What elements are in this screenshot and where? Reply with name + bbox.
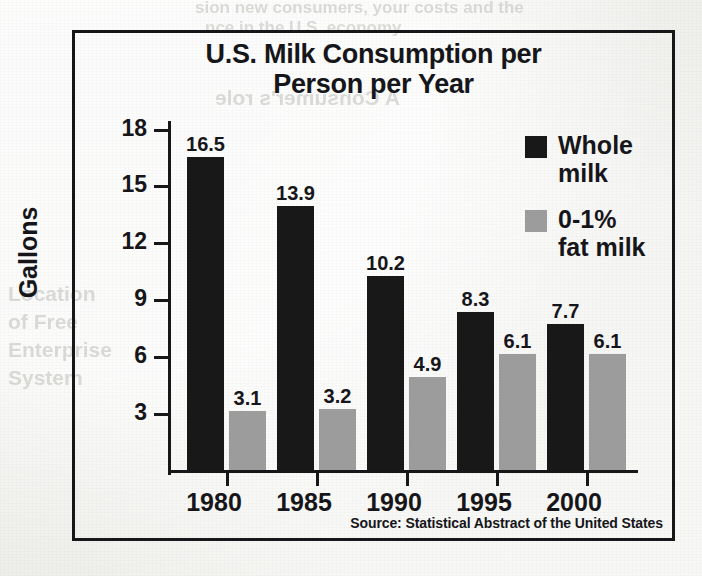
y-tick-9	[154, 299, 169, 302]
chart-legend: Whole milk 0-1% fat milk	[525, 131, 646, 279]
bar-value-1985-whole: 13.9	[268, 182, 323, 205]
bar-2000-low-fat-milk[interactable]	[589, 354, 626, 470]
y-tick-3	[154, 413, 169, 416]
x-tick-1985	[316, 473, 319, 486]
legend-swatch-low-fat-milk-icon	[525, 210, 547, 232]
bar-1985-low-fat-milk[interactable]	[319, 409, 356, 470]
y-tick-18	[154, 129, 169, 132]
legend-label-whole-milk-line-2: milk	[558, 159, 608, 187]
x-tick-label-1995: 1995	[439, 488, 529, 517]
y-tick-label-18: 18	[85, 115, 147, 142]
x-tick-label-2000: 2000	[529, 488, 619, 517]
legend-label-whole-milk: Whole milk	[558, 131, 633, 187]
bar-1995-low-fat-milk[interactable]	[499, 354, 536, 470]
y-tick-label-6: 6	[85, 342, 147, 369]
x-axis-line	[168, 470, 638, 473]
bar-1995-whole-milk[interactable]	[457, 312, 494, 470]
legend-item-low-fat-milk[interactable]: 0-1% fat milk	[525, 205, 646, 261]
y-tick-15	[154, 185, 169, 188]
x-tick-2000	[586, 473, 589, 486]
legend-label-low-fat-milk-line-2: fat milk	[558, 233, 646, 261]
bar-2000-whole-milk[interactable]	[547, 324, 584, 470]
y-tick-label-3: 3	[85, 399, 147, 426]
x-tick-1995	[496, 473, 499, 486]
bar-value-1995-whole: 8.3	[448, 288, 503, 311]
legend-swatch-whole-milk-icon	[525, 136, 547, 158]
bar-value-1995-lowfat: 6.1	[490, 330, 545, 353]
chart-source-note: Source: Statistical Abstract of the Unit…	[350, 515, 663, 531]
bar-1980-low-fat-milk[interactable]	[229, 411, 266, 470]
y-tick-6	[154, 356, 169, 359]
bar-1985-whole-milk[interactable]	[277, 206, 314, 470]
x-tick-1990	[406, 473, 409, 486]
bar-value-1985-lowfat: 3.2	[310, 385, 365, 408]
chart-title-line-1: U.S. Milk Consumption per	[205, 39, 541, 69]
legend-label-low-fat-milk-line-1: 0-1%	[558, 205, 616, 233]
legend-item-whole-milk[interactable]: Whole milk	[525, 131, 646, 187]
bar-value-1980-whole: 16.5	[178, 133, 233, 156]
chart-frame: U.S. Milk Consumption per Person per Yea…	[72, 30, 675, 541]
y-tick-12	[154, 242, 169, 245]
x-tick-label-1985: 1985	[259, 488, 349, 517]
y-tick-label-12: 12	[85, 228, 147, 255]
bar-1980-whole-milk[interactable]	[187, 157, 224, 470]
legend-label-whole-milk-line-1: Whole	[558, 131, 633, 159]
x-tick-label-1980: 1980	[169, 488, 259, 517]
chart-title-line-2: Person per Year	[273, 69, 474, 99]
bar-value-1990-lowfat: 4.9	[400, 353, 455, 376]
bar-value-1980-lowfat: 3.1	[220, 387, 275, 410]
bar-value-1990-whole: 10.2	[358, 252, 413, 275]
chart-title: U.S. Milk Consumption per Person per Yea…	[75, 39, 672, 99]
legend-label-low-fat-milk: 0-1% fat milk	[558, 205, 646, 261]
y-tick-label-15: 15	[85, 171, 147, 198]
bar-value-2000-whole: 7.7	[538, 300, 593, 323]
bar-1990-low-fat-milk[interactable]	[409, 377, 446, 470]
y-tick-label-9: 9	[85, 285, 147, 312]
bar-value-2000-lowfat: 6.1	[580, 330, 635, 353]
bar-1990-whole-milk[interactable]	[367, 276, 404, 470]
x-tick-1980	[226, 473, 229, 486]
x-tick-label-1990: 1990	[349, 488, 439, 517]
y-axis-title: Gallons	[14, 163, 43, 343]
